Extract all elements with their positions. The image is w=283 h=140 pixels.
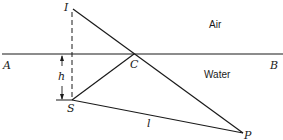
- line-sc: [72, 54, 134, 100]
- refraction-diagram: I A B C S P h l Air Water: [0, 0, 283, 140]
- label-point-s: S: [67, 102, 75, 115]
- label-medium-air: Air: [209, 19, 222, 30]
- label-medium-water: Water: [204, 69, 231, 80]
- label-point-b: B: [269, 59, 278, 72]
- label-point-a: A: [2, 59, 11, 72]
- label-point-c: C: [130, 58, 139, 71]
- label-depth-h: h: [58, 70, 65, 83]
- label-distance-l: l: [147, 117, 151, 130]
- label-point-p: P: [243, 129, 252, 140]
- label-point-i: I: [63, 1, 69, 14]
- line-sp: [72, 100, 243, 133]
